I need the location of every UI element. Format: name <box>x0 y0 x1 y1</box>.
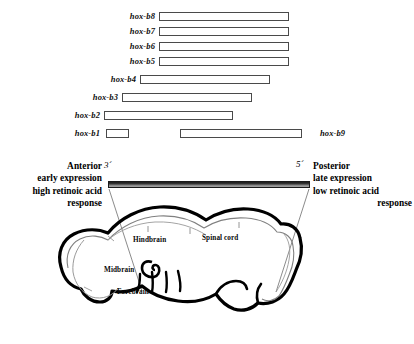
embryo-region-label: Spinal cord <box>202 234 238 242</box>
hox-gene-label: hox-b5 <box>117 56 155 67</box>
hox-expression-figure: hox-b8hox-b7hox-b6hox-b5hox-b4hox-b3hox-… <box>0 0 414 344</box>
hox-row: hox-b4 <box>0 74 414 85</box>
tail-inner-contour <box>276 234 290 292</box>
hox-expression-bar <box>159 27 289 36</box>
embryo-region-label: Forebrain <box>117 288 149 296</box>
hox-row: hox-b6 <box>0 41 414 52</box>
forelimb-bud <box>216 281 247 294</box>
hox-row: hox-b8 <box>0 11 414 22</box>
embryo-region-label: Midbrain <box>104 266 134 274</box>
hox-gene-label: hox-b6 <box>117 41 155 52</box>
hox-expression-bar <box>104 111 233 120</box>
hox-gene-label: hox-b4 <box>98 74 136 85</box>
hox-expression-bar <box>159 42 289 51</box>
hox-row: hox-b3 <box>0 92 414 103</box>
hox-row: hox-b2 <box>0 110 414 121</box>
hox-expression-bar <box>159 57 289 66</box>
hox-expression-bar <box>140 75 270 84</box>
forebrain-leader <box>84 287 92 291</box>
embryo-region-label: Hindbrain <box>133 236 166 244</box>
hox-gene-label: hox-b8 <box>117 11 155 22</box>
hox-row: hox-b5 <box>0 56 414 67</box>
hox-expression-bar <box>159 12 289 21</box>
hox-expression-bar <box>122 93 252 102</box>
hindlimb-notch <box>257 284 261 303</box>
hox-gene-label: hox-b7 <box>117 26 155 37</box>
hox-row: hox-b7 <box>0 26 414 37</box>
label-leader-lines <box>84 236 114 291</box>
otic-vesicle <box>142 261 159 277</box>
hox-gene-label: hox-b9 <box>320 128 360 139</box>
hox-row: hox-b9 <box>0 128 414 139</box>
embryo-diagram <box>0 150 414 344</box>
limb-and-tail-details <box>216 281 261 303</box>
arch-4 <box>178 271 180 291</box>
hox-expression-bar <box>180 129 302 138</box>
hox-gene-label: hox-b2 <box>62 110 100 121</box>
hox-gene-label: hox-b3 <box>80 92 118 103</box>
arch-2 <box>152 272 153 292</box>
arch-3 <box>166 272 167 292</box>
